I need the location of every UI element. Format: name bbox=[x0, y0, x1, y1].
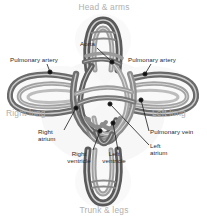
region-label-trunk-legs: Trunk & legs bbox=[70, 207, 138, 214]
leader-dot-pulmonary-vein bbox=[139, 98, 143, 102]
leader-dot-pulmonary-artery-right bbox=[143, 72, 147, 76]
callout-pulmonary-artery-right: Pulmonary artery bbox=[128, 56, 176, 63]
leader-dot-left-atrium bbox=[108, 102, 112, 106]
diagram-canvas: Head & arms Right lung Left lung Trunk &… bbox=[0, 0, 207, 223]
leader-dot-aorta bbox=[110, 60, 114, 64]
leader-dot-left-ventricle bbox=[111, 121, 115, 125]
callout-pulmonary-artery-left: Pulmonary artery bbox=[10, 56, 58, 63]
callout-left-ventricle: Left ventricle bbox=[100, 150, 128, 164]
leader-dot-right-ventricle bbox=[98, 129, 102, 133]
callout-pulmonary-vein: Pulmonary vein bbox=[150, 128, 193, 135]
callout-left-atrium: Left atrium bbox=[150, 142, 168, 156]
region-label-left-lung: Left lung bbox=[152, 110, 207, 117]
region-label-right-lung: Right lung bbox=[6, 110, 66, 117]
leader-dot-right-atrium bbox=[74, 106, 78, 110]
leader-dot-pulmonary-artery-left bbox=[48, 70, 52, 74]
callout-right-atrium: Right atrium bbox=[38, 128, 56, 142]
callout-right-ventricle: Right ventricle bbox=[64, 150, 94, 164]
callout-aorta: Aorta bbox=[80, 40, 95, 47]
region-label-head-arms: Head & arms bbox=[70, 4, 138, 11]
